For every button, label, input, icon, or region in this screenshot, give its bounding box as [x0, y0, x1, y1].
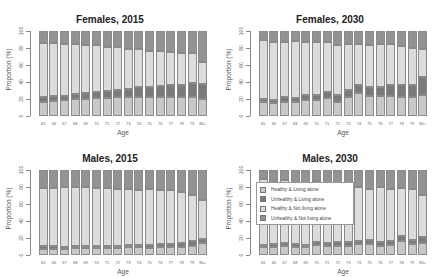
bar-segment — [408, 85, 417, 97]
y-tick — [246, 187, 250, 188]
bar-segment — [198, 84, 207, 99]
y-tick — [246, 82, 250, 83]
stacked-bar — [418, 170, 427, 255]
y-axis-title: Proportion (%) — [5, 40, 12, 100]
stacked-bar — [280, 31, 289, 116]
bar-segment — [39, 188, 48, 246]
bar-segment — [71, 187, 80, 246]
stacked-bar — [312, 31, 321, 116]
bar-segment — [156, 190, 165, 244]
stacked-bar — [145, 31, 154, 116]
bar-segment — [92, 170, 101, 188]
bar-segment — [113, 170, 122, 189]
x-axis-title: Age — [38, 129, 208, 136]
stacked-bar — [418, 31, 427, 116]
bar-segment — [177, 53, 186, 84]
bar-segment — [312, 245, 321, 255]
y-tick-label: 60 — [238, 58, 244, 72]
legend-item-healthy-living-alone: Healthy & Living alone — [260, 185, 350, 195]
bar-segment — [145, 87, 154, 97]
bar-segment — [188, 246, 197, 255]
stacked-bar — [408, 170, 417, 255]
chart-title: Females, 2015 — [0, 14, 220, 25]
bar-segment — [49, 188, 58, 246]
bar-segment — [291, 247, 300, 256]
stacked-bar — [92, 170, 101, 255]
y-tick — [26, 170, 30, 171]
bar-segment — [323, 42, 332, 92]
y-axis-line — [30, 31, 31, 116]
bar-segment — [354, 85, 363, 93]
bar-segment — [124, 89, 133, 98]
bar-segment — [145, 170, 154, 189]
bar-segment — [269, 170, 278, 182]
bar-segment — [103, 248, 112, 255]
stacked-bar — [365, 31, 374, 116]
y-axis-title: Proportion (%) — [5, 179, 12, 239]
bar-segment — [198, 62, 207, 84]
y-tick-label: 0 — [238, 109, 244, 123]
bar-segment — [259, 170, 268, 179]
bar-segment — [386, 31, 395, 44]
stacked-bar — [354, 170, 363, 255]
bar-segment — [418, 243, 427, 255]
bar-segment — [291, 102, 300, 116]
bar-segment — [177, 97, 186, 116]
y-tick-label: 40 — [18, 214, 24, 228]
chart-title: Males, 2030 — [220, 153, 440, 164]
bar-segment — [354, 244, 363, 255]
y-tick-label: 40 — [18, 75, 24, 89]
stacked-bar — [156, 31, 165, 116]
bar-segment — [166, 170, 175, 190]
bar-segment — [166, 247, 175, 255]
bar-segment — [376, 170, 385, 187]
bar-segment — [333, 31, 342, 45]
bar-segment — [103, 31, 112, 47]
bar-segment — [397, 170, 406, 188]
bar-segment — [81, 31, 90, 45]
bar-segment — [397, 97, 406, 116]
bar-segment — [113, 47, 122, 90]
stacked-bar — [408, 31, 417, 116]
bar-segment — [408, 31, 417, 48]
y-tick — [246, 221, 250, 222]
bar-segment — [166, 190, 175, 244]
bar-segment — [408, 244, 417, 255]
bar-segment — [323, 31, 332, 42]
stacked-bar — [269, 31, 278, 116]
bar-segment — [103, 91, 112, 98]
stacked-bar — [386, 31, 395, 116]
bar-segment — [60, 100, 69, 116]
bar-segment — [418, 170, 427, 195]
bar-segment — [60, 44, 69, 96]
bar-segment — [198, 243, 207, 255]
x-tick-label: 80+ — [197, 121, 209, 126]
bar-segment — [166, 31, 175, 52]
bar-segment — [103, 47, 112, 91]
bar-segment — [408, 97, 417, 116]
bar-segment — [188, 83, 197, 97]
bar-segment — [49, 170, 58, 188]
bar-segment — [386, 96, 395, 116]
legend-label: Unhealthy & Not living alone — [271, 216, 331, 221]
bar-segment — [124, 31, 133, 49]
stacked-bar — [49, 31, 58, 116]
y-tick — [26, 31, 30, 32]
bar-segment — [333, 95, 342, 102]
bar-segment — [60, 249, 69, 255]
x-tick-label: 80+ — [417, 260, 429, 265]
stacked-bar — [71, 170, 80, 255]
bar-segment — [166, 52, 175, 85]
bar-segment — [397, 85, 406, 97]
bar-segment — [280, 31, 289, 42]
y-tick — [26, 48, 30, 49]
bar-segment — [103, 188, 112, 246]
bar-segment — [156, 51, 165, 86]
stacked-bar — [156, 170, 165, 255]
bar-segment — [124, 247, 133, 255]
bar-segment — [156, 170, 165, 190]
bar-segment — [39, 43, 48, 97]
y-tick-label: 100 — [18, 24, 24, 38]
stacked-bar — [49, 170, 58, 255]
stacked-bar — [397, 31, 406, 116]
